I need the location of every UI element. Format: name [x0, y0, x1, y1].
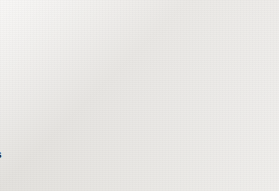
bar-chart: s 38% Poor countries 68% Middle- income …: [0, 0, 279, 191]
clipped-axis-label-fragment: s: [0, 149, 1, 160]
paper-texture-overlay: [0, 0, 279, 191]
